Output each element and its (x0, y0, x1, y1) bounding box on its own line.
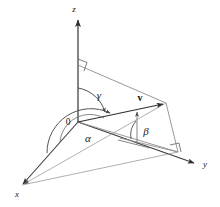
angle-label-alpha: α (85, 132, 91, 144)
vector-label-v: v (138, 92, 143, 103)
beta-arc (131, 121, 136, 139)
construction-plane-edge-left (120, 138, 178, 152)
angle-label-gamma: γ (97, 89, 102, 101)
origin-label: 0 (66, 117, 71, 127)
axis-label-z: z (71, 4, 76, 14)
axis-label-y: y (202, 159, 207, 169)
axis-label-x: x (14, 189, 19, 199)
vector-v (78, 104, 163, 122)
y-axis (78, 122, 194, 163)
figure-canvas: z y x 0 γ α β v (0, 0, 220, 207)
construction-plane-edge-far (22, 152, 178, 185)
angle-label-beta: β (142, 125, 149, 137)
construction-origin-to-projection (78, 122, 178, 152)
right-angle-z-axis-icon (78, 59, 87, 71)
direction-angles-diagram: z y x 0 γ α β v (0, 0, 220, 207)
construction-z-to-tip (78, 65, 166, 103)
